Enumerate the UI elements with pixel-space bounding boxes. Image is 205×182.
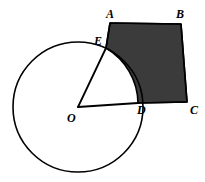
vertex-label-B: B bbox=[176, 8, 184, 20]
radius-O-E bbox=[78, 48, 106, 107]
geometry-figure: A B C D E O bbox=[0, 0, 205, 182]
vertex-label-O: O bbox=[67, 112, 76, 124]
vertex-label-E: E bbox=[94, 35, 102, 47]
segment-A-B bbox=[110, 23, 181, 24]
radius-O-D bbox=[78, 103, 138, 107]
vertex-label-D: D bbox=[137, 104, 146, 116]
shaded-region-ABCD bbox=[106, 23, 187, 103]
vertex-label-C: C bbox=[190, 104, 198, 116]
vertex-label-A: A bbox=[106, 8, 114, 20]
figure-canvas bbox=[0, 0, 205, 182]
